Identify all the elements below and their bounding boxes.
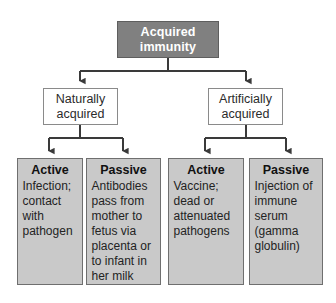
node-natural-passive-title: Passive <box>100 163 147 178</box>
node-natural-active-body: Infection; contact with pathogen <box>22 179 79 239</box>
node-artificially-acquired-label: Artificially acquired <box>219 92 272 122</box>
node-naturally-acquired: Naturally acquired <box>43 88 118 125</box>
node-acquired-immunity: Acquired immunity <box>117 21 219 58</box>
node-artificial-passive-title: Passive <box>263 163 310 178</box>
node-natural-passive-body: Antibodies pass from mother to fetus via… <box>91 179 157 284</box>
node-naturally-acquired-label: Naturally acquired <box>56 92 105 122</box>
node-artificial-active-body: Vaccine; dead or attenuated pathogens <box>173 179 240 239</box>
node-artificial-passive-body: Injection of immune serum (gamma globuli… <box>254 179 319 254</box>
node-artificial-passive: Passive Injection of immune serum (gamma… <box>249 158 323 285</box>
acquired-immunity-diagram: Acquired immunity Naturally acquired Art… <box>0 0 336 303</box>
node-natural-active-title: Active <box>31 163 69 178</box>
node-artificially-acquired: Artificially acquired <box>208 88 283 125</box>
node-natural-active: Active Infection; contact with pathogen <box>17 158 83 285</box>
node-artificial-active: Active Vaccine; dead or attenuated patho… <box>168 158 244 285</box>
node-acquired-immunity-label: Acquired immunity <box>140 25 196 55</box>
node-artificial-active-title: Active <box>187 163 225 178</box>
node-natural-passive: Passive Antibodies pass from mother to f… <box>86 158 161 285</box>
